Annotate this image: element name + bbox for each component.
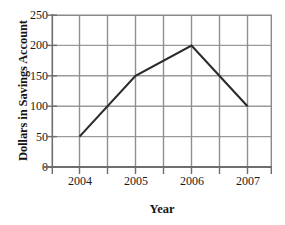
plot-area <box>0 0 285 225</box>
x-axis <box>44 167 272 174</box>
horizontal-gridlines <box>52 45 272 136</box>
plot-frame <box>52 15 272 167</box>
y-axis <box>46 14 57 168</box>
line-chart: Dollars in Savings Account Year 250 200 … <box>0 0 285 225</box>
vertical-gridlines <box>80 15 248 167</box>
